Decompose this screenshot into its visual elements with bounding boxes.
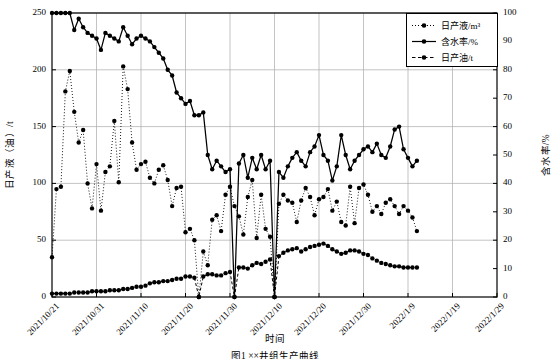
y2-tick-label: 50 (503, 149, 512, 159)
legend-sample-dotted (411, 20, 437, 31)
legend-label-oil: 日产油/t (441, 51, 473, 64)
y2-tick-label: 90 (503, 35, 512, 45)
y2-tick-label: 70 (503, 92, 512, 102)
y-tick-label: 250 (22, 7, 46, 17)
legend-sample-dashed (411, 52, 437, 63)
y-tick-label: 0 (22, 291, 46, 301)
y2-tick-label: 20 (503, 234, 512, 244)
y-axis-left-title: 日产液（油）/t (2, 115, 16, 195)
y2-tick-label: 10 (503, 263, 512, 273)
y2-tick-label: 80 (503, 64, 512, 74)
y2-tick-label: 100 (503, 7, 517, 17)
legend-item-oil: 日产油/t (411, 49, 493, 65)
legend-label-liquid: 日产液/m³ (441, 19, 480, 32)
y2-tick-label: 60 (503, 121, 512, 131)
legend-item-watercut: 含水率/% (411, 33, 493, 49)
y2-tick-label: 30 (503, 206, 512, 216)
y-tick-label: 200 (22, 64, 46, 74)
legend-item-liquid: 日产液/m³ (411, 17, 493, 33)
y2-tick-label: 0 (503, 291, 508, 301)
y-tick-label: 50 (22, 234, 46, 244)
y-tick-label: 100 (22, 177, 46, 187)
y2-tick-label: 40 (503, 177, 512, 187)
chart-legend: 日产液/m³ 含水率/% 日产油/t (406, 13, 498, 67)
y-tick-label: 150 (22, 121, 46, 131)
legend-sample-solid (411, 36, 437, 47)
legend-label-watercut: 含水率/% (441, 35, 478, 48)
y-axis-right-title: 含水率/% (538, 115, 552, 195)
figure-caption: 图1 ××井组生产曲线 (0, 348, 550, 359)
